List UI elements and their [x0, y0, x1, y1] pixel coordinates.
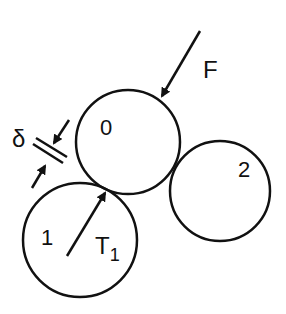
circle-2-label: 2	[238, 157, 250, 182]
gap-arrow-upper-icon	[54, 120, 69, 143]
circle-0-label: 0	[100, 115, 112, 140]
torque-label-main: T	[95, 232, 110, 259]
force-arrow-icon	[162, 31, 200, 96]
contact-diagram: F δ 0 1 2 T1	[0, 0, 286, 314]
circle-0	[76, 90, 180, 194]
circle-1-label: 1	[41, 225, 53, 250]
torque-label-sub: 1	[110, 245, 120, 265]
torque-label: T1	[95, 232, 120, 265]
circle-2	[170, 141, 270, 241]
gap-arrow-lower-icon	[32, 166, 45, 188]
force-label: F	[203, 56, 218, 83]
gap-line-lower	[33, 144, 63, 163]
gap-label: δ	[12, 125, 25, 152]
